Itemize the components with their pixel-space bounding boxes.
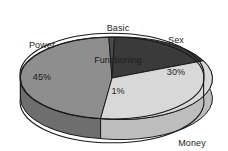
slice-label-sex-value: 30% bbox=[154, 67, 198, 78]
slice-label-basic-functioning-name-line1: Basic bbox=[80, 23, 156, 34]
slice-label-power: Power 45% bbox=[14, 19, 70, 103]
pie-chart: Power 45% Basic Functioning 1% Sex 30% M… bbox=[0, 0, 228, 151]
slice-label-sex-name: Sex bbox=[154, 35, 198, 46]
slice-label-basic-functioning-name-line2: Functioning bbox=[80, 55, 156, 66]
slice-label-basic-functioning: Basic Functioning 1% bbox=[80, 2, 156, 118]
slice-label-money: Money 45% bbox=[166, 117, 218, 151]
slice-label-power-value: 45% bbox=[14, 72, 70, 83]
slice-label-sex: Sex 30% bbox=[154, 14, 198, 98]
slice-label-basic-functioning-value: 1% bbox=[80, 86, 156, 97]
slice-label-money-name: Money bbox=[166, 138, 218, 149]
slice-label-power-name: Power bbox=[14, 40, 70, 51]
